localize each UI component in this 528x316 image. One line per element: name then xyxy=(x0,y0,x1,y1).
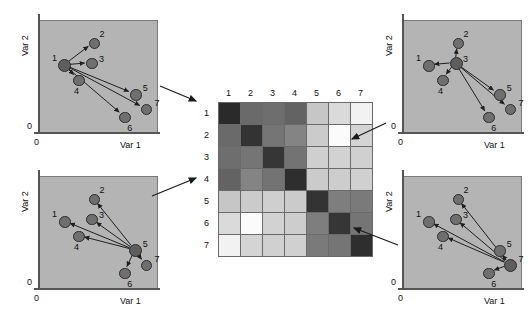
arrow-7-to-1 xyxy=(434,224,505,262)
matrix-cell-5-4 xyxy=(285,191,306,212)
arrow-5-to-6 xyxy=(127,255,132,267)
matrix-cell-2-5 xyxy=(307,125,328,146)
scatter-panel-hub-7: Var 2Var 1001234567 xyxy=(372,162,528,314)
matrix-cell-7-5 xyxy=(307,235,328,256)
data-point-1 xyxy=(423,216,435,228)
data-point-label-4: 4 xyxy=(438,242,443,252)
matrix-cell-4-5 xyxy=(307,169,328,190)
data-point-4 xyxy=(437,75,449,87)
arrow-5-to-3 xyxy=(96,222,130,246)
matrix-cell-3-7 xyxy=(351,147,372,168)
arrow-3-to-1 xyxy=(434,63,449,64)
scatter-panel-hub-3: Var 2Var 1001234567 xyxy=(372,6,528,158)
data-point-label-5: 5 xyxy=(507,83,512,93)
data-point-4 xyxy=(73,75,85,87)
data-point-label-3: 3 xyxy=(99,54,104,64)
data-point-5 xyxy=(130,89,142,101)
data-point-label-5: 5 xyxy=(143,83,148,93)
matrix-row-header-2: 2 xyxy=(204,130,209,140)
data-point-1 xyxy=(423,60,435,72)
data-point-label-1: 1 xyxy=(52,209,57,219)
matrix-cell-7-6 xyxy=(329,235,350,256)
distance-arrows xyxy=(8,162,178,314)
distance-arrows xyxy=(372,162,528,314)
data-point-label-3: 3 xyxy=(463,54,468,64)
matrix-col-header-7: 7 xyxy=(358,88,363,98)
data-point-6 xyxy=(119,268,131,280)
data-point-3 xyxy=(86,214,98,226)
scatter-panel-hub-1: Var 2Var 1001234567 xyxy=(8,6,178,158)
matrix-row-header-6: 6 xyxy=(204,218,209,228)
matrix-cell-4-4 xyxy=(285,169,306,190)
matrix-cell-3-1 xyxy=(219,147,240,168)
matrix-cell-5-6 xyxy=(329,191,350,212)
data-point-label-6: 6 xyxy=(127,279,132,289)
matrix-cell-1-5 xyxy=(307,103,328,124)
matrix-cell-1-6 xyxy=(329,103,350,124)
data-point-6 xyxy=(119,112,131,124)
arrow-1-to-3 xyxy=(69,63,84,64)
matrix-cell-5-5 xyxy=(307,191,328,212)
scatter-panel-hub-5: Var 2Var 1001234567 xyxy=(8,162,178,314)
matrix-cell-2-1 xyxy=(219,125,240,146)
matrix-cell-1-1 xyxy=(219,103,240,124)
matrix-cell-2-2 xyxy=(241,125,262,146)
matrix-cell-2-7 xyxy=(351,125,372,146)
matrix-cell-2-4 xyxy=(285,125,306,146)
matrix-cell-7-4 xyxy=(285,235,306,256)
data-point-1 xyxy=(59,216,71,228)
data-point-6 xyxy=(483,112,495,124)
matrix-cell-6-2 xyxy=(241,213,262,234)
data-point-3 xyxy=(450,57,463,70)
data-point-label-3: 3 xyxy=(99,210,104,220)
data-point-label-6: 6 xyxy=(491,279,496,289)
data-point-label-4: 4 xyxy=(438,86,443,96)
matrix-col-header-4: 4 xyxy=(292,88,297,98)
matrix-cell-2-3 xyxy=(263,125,284,146)
matrix-cell-4-3 xyxy=(263,169,284,190)
matrix-cell-4-6 xyxy=(329,169,350,190)
data-point-label-3: 3 xyxy=(463,210,468,220)
data-point-5 xyxy=(494,89,506,101)
matrix-cell-3-3 xyxy=(263,147,284,168)
matrix-cell-3-6 xyxy=(329,147,350,168)
data-point-label-2: 2 xyxy=(463,29,468,39)
matrix-cell-5-7 xyxy=(351,191,372,212)
data-point-label-4: 4 xyxy=(74,242,79,252)
matrix-cell-7-3 xyxy=(263,235,284,256)
data-point-7 xyxy=(504,259,517,272)
distance-arrows xyxy=(8,6,178,158)
matrix-cell-5-3 xyxy=(263,191,284,212)
matrix-cell-6-7 xyxy=(351,213,372,234)
matrix-cell-6-4 xyxy=(285,213,306,234)
data-point-label-1: 1 xyxy=(52,53,57,63)
matrix-cell-6-3 xyxy=(263,213,284,234)
data-point-label-1: 1 xyxy=(416,209,421,219)
matrix-cell-1-4 xyxy=(285,103,306,124)
matrix-cell-6-1 xyxy=(219,213,240,234)
data-point-label-6: 6 xyxy=(127,123,132,133)
matrix-cell-4-2 xyxy=(241,169,262,190)
matrix-cell-6-6 xyxy=(329,213,350,234)
matrix-col-header-6: 6 xyxy=(336,88,341,98)
matrix-cell-1-7 xyxy=(351,103,372,124)
matrix-cell-2-6 xyxy=(329,125,350,146)
matrix-cell-3-4 xyxy=(285,147,306,168)
data-point-label-5: 5 xyxy=(143,239,148,249)
matrix-cell-3-5 xyxy=(307,147,328,168)
matrix-cell-5-2 xyxy=(241,191,262,212)
data-point-label-2: 2 xyxy=(463,185,468,195)
matrix-col-header-3: 3 xyxy=(270,88,275,98)
matrix-row-header-1: 1 xyxy=(204,108,209,118)
matrix-col-header-2: 2 xyxy=(248,88,253,98)
matrix-cell-5-1 xyxy=(219,191,240,212)
data-point-label-7: 7 xyxy=(518,98,523,108)
data-point-4 xyxy=(437,231,449,243)
data-point-label-2: 2 xyxy=(99,185,104,195)
matrix-grid xyxy=(218,102,373,257)
distance-arrows xyxy=(372,6,528,158)
matrix-row-header-5: 5 xyxy=(204,196,209,206)
matrix-row-header-4: 4 xyxy=(204,174,209,184)
data-point-label-2: 2 xyxy=(99,29,104,39)
matrix-col-header-1: 1 xyxy=(226,88,231,98)
